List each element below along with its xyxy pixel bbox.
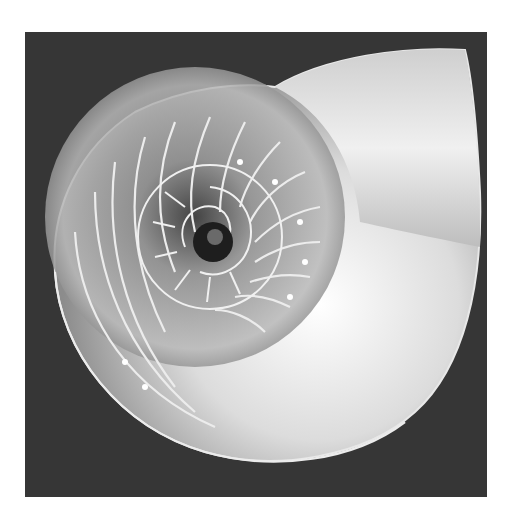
nautilus-photo bbox=[25, 32, 487, 497]
nautilus-shell-illustration bbox=[25, 32, 487, 497]
